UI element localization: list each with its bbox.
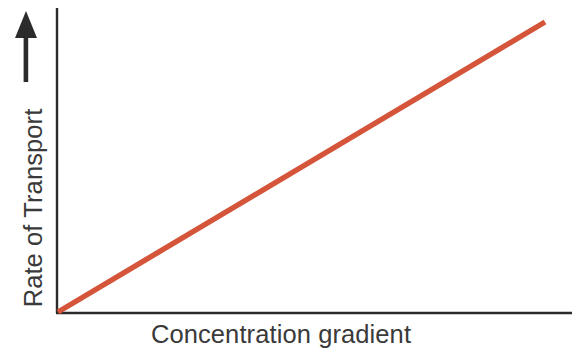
data-line-rate-of-transport [58, 22, 545, 312]
up-arrow-icon [13, 8, 39, 82]
plot-area [0, 0, 572, 352]
y-axis-label: Rate of Transport [13, 93, 53, 323]
chart-figure: Rate of Transport Concentration gradient [0, 0, 572, 352]
x-axis-label: Concentration gradient [57, 320, 505, 349]
y-axis-label-group: Rate of Transport [0, 0, 50, 313]
